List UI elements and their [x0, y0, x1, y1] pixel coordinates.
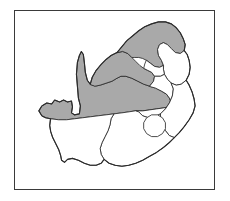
south-africa-map	[15, 11, 214, 189]
region-lesotho[interactable]	[144, 115, 166, 137]
map-frame-border	[14, 10, 215, 190]
map-figure	[0, 0, 230, 201]
